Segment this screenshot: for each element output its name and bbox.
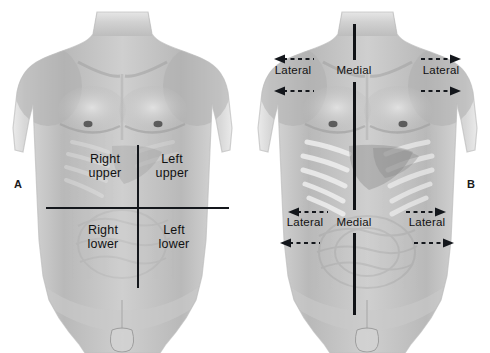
label-right-lower-quadrant: Right lower xyxy=(75,223,131,251)
label-left-lower-quadrant: Left lower xyxy=(146,223,202,251)
ruq-line2: upper xyxy=(77,166,133,180)
arrow-upper-right-outer xyxy=(420,50,462,60)
quadrant-vertical-line xyxy=(137,145,139,288)
panel-label-a: A xyxy=(14,178,22,190)
arrow-upper-left-inner xyxy=(273,82,315,92)
midline-segment-middle xyxy=(353,82,356,210)
label-upper-medial: Medial xyxy=(323,64,385,76)
label-left-upper-quadrant: Left upper xyxy=(144,152,200,180)
arrow-lower-left-outer xyxy=(287,203,329,213)
arrow-lower-right-inner xyxy=(413,234,455,244)
panel-a: Right upper Left upper Right lower Left … xyxy=(0,0,245,353)
arrow-upper-right-inner xyxy=(420,82,462,92)
arrow-upper-left-outer xyxy=(273,50,315,60)
rlq-line1: Right xyxy=(75,223,131,237)
luq-line2: upper xyxy=(144,166,200,180)
rlq-line2: lower xyxy=(75,237,131,251)
quadrant-horizontal-line xyxy=(46,207,229,209)
ruq-line1: Right xyxy=(77,152,133,166)
label-upper-right-lateral: Lateral xyxy=(407,64,475,76)
midline-segment-bottom xyxy=(353,233,356,315)
label-right-upper-quadrant: Right upper xyxy=(77,152,133,180)
arrow-lower-right-outer xyxy=(405,203,447,213)
panel-b: Lateral Medial Lateral xyxy=(245,0,490,353)
label-lower-right-lateral: Lateral xyxy=(395,216,459,228)
midline-segment-top xyxy=(353,24,356,60)
arrow-lower-left-inner xyxy=(279,234,321,244)
label-lower-medial: Medial xyxy=(324,216,384,228)
anatomy-figure: Right upper Left upper Right lower Left … xyxy=(0,0,490,353)
llq-line2: lower xyxy=(146,237,202,251)
llq-line1: Left xyxy=(146,223,202,237)
label-upper-left-lateral: Lateral xyxy=(259,64,327,76)
luq-line1: Left xyxy=(144,152,200,166)
panel-label-b: B xyxy=(467,178,475,190)
